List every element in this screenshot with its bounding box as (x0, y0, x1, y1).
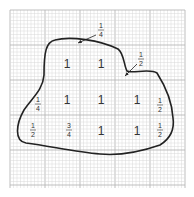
fraction-numerator: 1 (139, 51, 143, 58)
whole-cell-label: 1 (134, 124, 141, 138)
fraction-numerator: 1 (31, 122, 35, 129)
fraction-label: 12 (157, 97, 163, 113)
fraction-denominator: 2 (158, 131, 162, 138)
fraction-label: 14 (35, 96, 41, 112)
fraction-denominator: 2 (158, 106, 162, 113)
fraction-label: 14 (98, 22, 104, 38)
fraction-denominator: 2 (31, 131, 35, 138)
whole-cell-label: 1 (98, 124, 105, 138)
fraction-denominator: 4 (99, 31, 103, 38)
fraction-numerator: 3 (67, 122, 71, 129)
fraction-label: 12 (30, 122, 36, 138)
fraction-denominator: 4 (36, 105, 40, 112)
area-estimation-diagram: 111111114121412123412 (0, 0, 194, 197)
fraction-numerator: 1 (36, 96, 40, 103)
fraction-denominator: 4 (67, 131, 71, 138)
grid-diagram: 111111114121412123412 (0, 0, 194, 197)
whole-cell-label: 1 (98, 57, 105, 71)
whole-cell-label: 1 (64, 57, 71, 71)
fraction-label: 12 (157, 122, 163, 138)
fraction-numerator: 1 (99, 22, 103, 29)
fraction-label: 34 (66, 122, 72, 138)
fraction-denominator: 2 (139, 60, 143, 67)
fraction-numerator: 1 (158, 122, 162, 129)
whole-cell-label: 1 (64, 93, 71, 107)
whole-cell-label: 1 (98, 93, 105, 107)
whole-cell-label: 1 (134, 93, 141, 107)
fraction-numerator: 1 (158, 97, 162, 104)
